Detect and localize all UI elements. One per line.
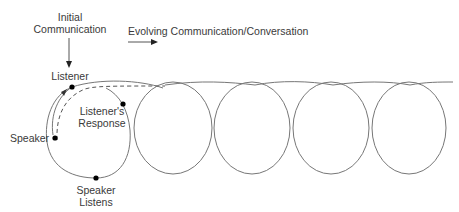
evolving-loops <box>134 82 453 174</box>
listener-dot <box>69 84 74 89</box>
listens-dot <box>93 175 98 180</box>
speaker-label: Speaker <box>10 132 49 144</box>
speaker-dot <box>52 135 57 140</box>
initial-communication-label: Initial Communication <box>30 11 110 35</box>
listener-label: Listener <box>50 70 90 82</box>
evolving-label: Evolving Communication/Conversation <box>128 25 308 37</box>
speaker-listens-label: Speaker Listens <box>73 184 119 208</box>
evolving-arrow-icon <box>128 39 158 45</box>
initial-arrow-icon <box>66 38 72 68</box>
listener-response-label: Listener's Response <box>77 105 127 129</box>
